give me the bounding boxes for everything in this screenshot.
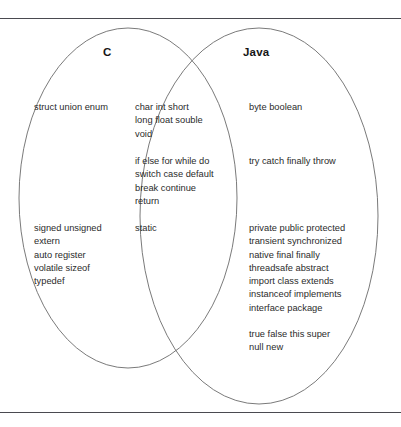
keyword-line: extern [34,235,102,248]
venn-diagram-figure: C Java struct union enum signed unsigned… [0,0,401,427]
shared-types-block: char int short long float souble void [135,101,203,141]
keyword-line: byte boolean [249,101,302,114]
keyword-line: import class extends [249,275,342,288]
keyword-line: null new [249,341,330,354]
java-only-modifiers-block: private public protected transient synch… [249,222,345,275]
java-only-literals-block: true false this super null new [249,328,330,355]
keyword-line: try catch finally throw [249,155,336,168]
keyword-line: transient synchronized [249,235,345,248]
keyword-line: interface package [249,302,342,315]
keyword-line: if else for while do [135,155,214,168]
keyword-line: typedef [34,275,102,288]
keyword-line: private public protected [249,222,345,235]
keyword-line: static [135,222,157,235]
java-only-exception-block: try catch finally throw [249,155,336,168]
java-set-label: Java [243,46,269,58]
venn-circles [0,0,401,427]
keyword-line: struct union enum [34,101,108,114]
keyword-line: void [135,128,203,141]
keyword-line: signed unsigned [34,222,102,235]
keyword-line: switch case default [135,168,214,181]
keyword-line: volatile sizeof [34,262,102,275]
keyword-line: auto register [34,249,102,262]
c-set-label: C [103,46,112,58]
java-only-types-block: byte boolean [249,101,302,114]
c-only-types-block: struct union enum [34,101,108,114]
shared-static-block: static [135,222,157,235]
keyword-line: instanceof implements [249,288,342,301]
keyword-line: return [135,195,214,208]
keyword-line: long float souble [135,114,203,127]
keyword-line: threadsafe abstract [249,262,345,275]
keyword-line: break continue [135,182,214,195]
keyword-line: native final finally [249,249,345,262]
shared-control-flow-block: if else for while do switch case default… [135,155,214,208]
java-only-declaration-block: import class extends instanceof implemen… [249,275,342,315]
keyword-line: char int short [135,101,203,114]
keyword-line: true false this super [249,328,330,341]
c-only-storage-block: signed unsigned extern auto register vol… [34,222,102,288]
